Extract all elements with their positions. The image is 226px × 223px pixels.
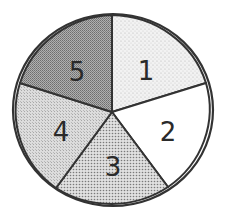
slice-label-3: 3 [105, 152, 122, 182]
pie-chart: 1 2 3 4 5 [0, 0, 226, 223]
slice-label-2: 2 [160, 117, 177, 147]
slice-label-1: 1 [138, 56, 155, 86]
slice-label-5: 5 [69, 57, 86, 87]
slice-label-4: 4 [53, 117, 70, 147]
